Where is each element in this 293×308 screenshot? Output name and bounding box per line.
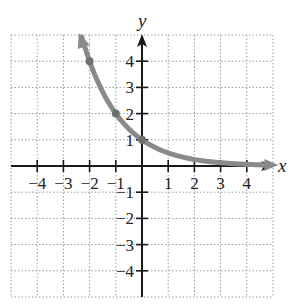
y-axis-label: y — [136, 10, 147, 31]
x-tick-label: 4 — [243, 174, 252, 193]
y-tick-label: 3 — [126, 78, 135, 97]
x-tick-label: 3 — [216, 174, 225, 193]
x-tick-label: −2 — [81, 174, 99, 193]
curve-series — [78, 33, 279, 171]
y-tick-label: 4 — [126, 52, 135, 71]
y-tick-label: −4 — [116, 262, 135, 281]
x-tick-label: −4 — [28, 174, 47, 193]
data-point — [86, 57, 94, 65]
exponential-graph: −4−3−2−112344321−1−2−3−4 x y — [0, 0, 293, 308]
curve-line — [82, 37, 271, 165]
y-tick-label: −3 — [116, 236, 134, 255]
x-axis-label: x — [277, 155, 287, 176]
y-tick-label: −2 — [116, 209, 134, 228]
curve-arrow-start-icon — [78, 33, 90, 49]
data-point — [112, 110, 120, 118]
x-tick-label: −3 — [54, 174, 72, 193]
y-tick-label: −1 — [116, 183, 134, 202]
y-tick-label: 2 — [126, 105, 135, 124]
data-point — [138, 136, 146, 144]
x-tick-label: 2 — [190, 174, 199, 193]
x-tick-label: 1 — [164, 174, 173, 193]
curve-arrow-end-icon — [264, 159, 278, 171]
